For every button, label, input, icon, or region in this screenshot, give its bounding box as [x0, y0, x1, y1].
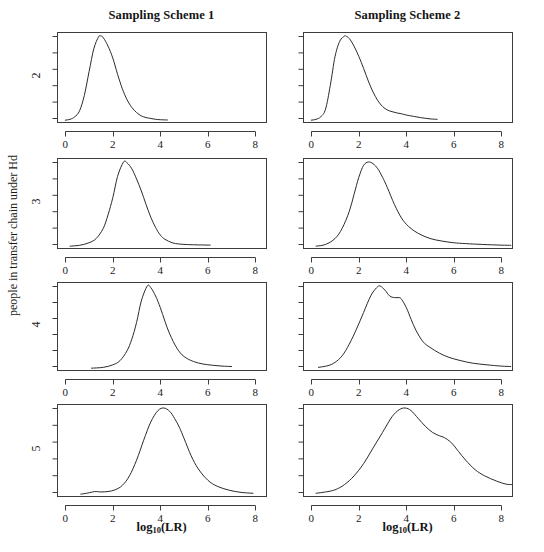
x-axis-title-left-sub: 10 — [152, 525, 161, 535]
x-axis-title-right: log10(LR) — [303, 520, 512, 535]
x-axis-title-left-main: log — [136, 520, 152, 534]
x-axis-title-left-tail: (LR) — [161, 520, 187, 534]
panel-sampling-scheme-2-row-5 — [0, 0, 544, 552]
density-curve — [316, 408, 512, 493]
x-axis-title-left: log10(LR) — [57, 520, 266, 535]
figure-root: Sampling Scheme 1 Sampling Scheme 2 peop… — [0, 0, 544, 552]
x-axis-title-right-tail: (LR) — [407, 520, 433, 534]
x-axis-title-right-sub: 10 — [398, 525, 407, 535]
panel-frame — [304, 405, 513, 497]
x-axis-title-right-main: log — [382, 520, 398, 534]
